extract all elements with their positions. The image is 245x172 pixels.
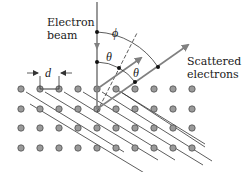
atom [189,106,195,112]
atom [18,145,24,151]
atom [37,106,43,112]
theta-label-right: θ [133,67,139,79]
atom [18,106,24,112]
atom [113,106,119,112]
atom [94,125,100,131]
atom [75,86,81,92]
atom [18,125,24,131]
atom [56,125,62,131]
atom [170,145,176,151]
phi-label: ϕ [112,27,118,39]
atom [75,145,81,151]
atom [56,106,62,112]
atom [132,86,138,92]
incident-beam [94,2,100,109]
atom [151,86,157,92]
electron-beam-label: Electron [47,17,95,29]
atom [37,125,43,131]
electron-diffraction-diagram [0,0,245,172]
atom [189,86,195,92]
atom [151,125,157,131]
atom [132,145,138,151]
atom [37,145,43,151]
atom [189,125,195,131]
bragg-planes [26,89,212,172]
atom [189,145,195,151]
electron-beam-label-line2: beam [47,30,78,42]
atom [94,145,100,151]
atom [113,125,119,131]
atom [151,145,157,151]
beam-direction-arrow-icon [94,43,100,50]
atom [113,145,119,151]
atom [170,86,176,92]
plane-normal-dashed [97,33,137,112]
atom [113,86,119,92]
atom [170,106,176,112]
atom [151,106,157,112]
atom [56,145,62,151]
spacing-d-label: d [45,67,51,79]
atom [132,125,138,131]
atom [132,106,138,112]
scattered-electrons-label: Scattered [187,56,241,68]
atom [18,86,24,92]
scattered-electrons-label-line2: electrons [187,69,239,81]
atom [75,106,81,112]
theta-label-left: θ [106,51,112,63]
atom [75,125,81,131]
atom [170,125,176,131]
